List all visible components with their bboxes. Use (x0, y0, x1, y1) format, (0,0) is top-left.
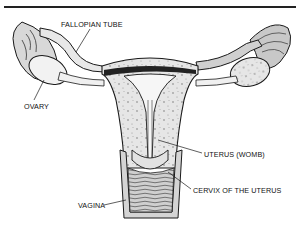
reproductive-system-illustration (0, 0, 299, 231)
diagram-frame: FALLOPIAN TUBE OVARY UTERUS (WOMB) CERVI… (0, 0, 299, 231)
label-uterus: UTERUS (WOMB) (204, 151, 265, 158)
label-fallopian-tube: FALLOPIAN TUBE (61, 21, 123, 28)
vaginal-rugae (128, 168, 174, 212)
right-ovarian-ligament (196, 76, 238, 86)
label-vagina: VAGINA (78, 202, 105, 209)
label-cervix: CERVIX OF THE UTERUS (193, 187, 281, 194)
left-ovarian-ligament (58, 72, 104, 86)
label-ovary: OVARY (24, 103, 49, 110)
